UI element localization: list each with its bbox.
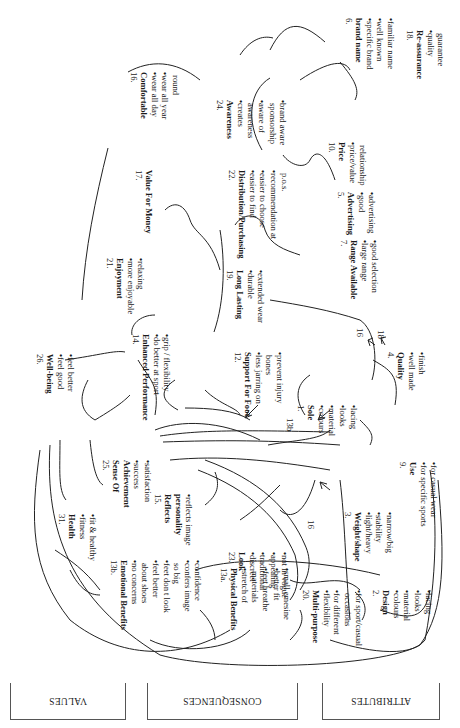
node-title: Physical Benefits	[229, 568, 240, 630]
node-item: •finish	[417, 352, 428, 391]
node-item-cont: •sponsorship	[267, 100, 278, 145]
node-title: Sense Of Achievement	[111, 460, 132, 500]
node-number: 13a.	[218, 568, 229, 630]
node-physical-benefits: 13a. Physical Benefits •stretch of •mate…	[218, 568, 292, 630]
node-title: Multi-purpose	[311, 590, 322, 646]
node-number: 17.	[133, 170, 144, 234]
node-item: •easier to choose	[258, 170, 269, 259]
node-title: Sole	[306, 405, 317, 436]
node-number: 25.	[100, 460, 111, 502]
level-box-attributes: ATTRIBUTES	[322, 683, 440, 720]
node-use: 9. Use •for specific sports •for casual …	[397, 462, 439, 527]
node-number: 3.	[342, 512, 353, 562]
node-item: •more enjoyable	[125, 258, 136, 314]
node-title: Use	[408, 462, 419, 527]
node-number: 21.	[104, 258, 115, 314]
level-label-attributes: ATTRIBUTES	[351, 696, 411, 706]
node-number: 6.	[343, 18, 354, 69]
node-health: 31. Health •fitness •fit & healthy	[56, 514, 98, 561]
node-price: 10. Price •price/value •relationship	[326, 142, 368, 186]
node-advertising: 5. Advertising •good •advertising	[335, 192, 377, 235]
node-item: •feet don t look	[161, 560, 172, 630]
node-item: •material	[402, 590, 413, 621]
node-number: 31.	[56, 514, 67, 561]
node-item: •feel better	[150, 560, 161, 630]
node-title: Advertising	[346, 192, 357, 235]
node-item-cont: •p.o.s.	[279, 170, 290, 259]
node-title: Reflects personality	[163, 494, 184, 538]
node-title: Support For Foot	[243, 352, 254, 416]
node-comfortable: 16. Comfortable •wear all day •wear all …	[128, 72, 181, 119]
node-title: Awareness	[225, 100, 236, 145]
node-item: •reflects image	[184, 494, 195, 545]
node-title: Range Available	[349, 240, 360, 299]
node-title: Well-being	[45, 354, 56, 394]
node-item: •flexibility	[321, 590, 332, 646]
node-number: 22.	[226, 170, 237, 259]
node-item: •wear all year	[160, 72, 171, 119]
node-number: 19.	[224, 270, 235, 323]
node-item: •familiar name	[385, 18, 396, 69]
node-number: 2.	[370, 590, 381, 621]
node-item: •feel good	[55, 354, 66, 394]
node-number: 12.	[232, 352, 243, 416]
annotation-18-top: 18	[376, 330, 386, 339]
node-item: •better fit	[271, 568, 282, 630]
node-item: •good selection	[370, 240, 381, 299]
node-item: •well made	[406, 352, 417, 391]
node-item: •feet breathe	[260, 568, 271, 630]
node-title: Design	[381, 590, 392, 621]
node-number: 14.	[130, 334, 141, 421]
node-item: •wear all day	[149, 72, 160, 119]
node-long-lasting: 19. Long Lasting •durable •extended wear	[224, 270, 266, 323]
node-item: •small emesine	[282, 568, 293, 630]
node-item: •lacing	[423, 590, 434, 621]
node-item: •colours	[391, 590, 402, 621]
node-title: Re-assurance	[415, 30, 426, 79]
node-number: 10.	[326, 142, 337, 186]
node-re-assurance: 18. Re-assurance •quality •guarantee	[404, 30, 446, 79]
node-item: •specific brand	[364, 18, 375, 69]
node-title: Comfortable	[139, 72, 150, 119]
node-value-for-money: 17. Value For Money	[133, 170, 154, 234]
node-item: •quality	[425, 30, 436, 79]
node-item: •aware of	[256, 100, 267, 145]
node-item: •colours	[316, 405, 327, 436]
node-item-cont: •guarantee	[436, 30, 447, 79]
node-item: •confers image	[182, 560, 193, 630]
node-item: •relaxing	[136, 258, 147, 314]
node-item: •stability	[374, 512, 385, 562]
annotation-16-mid: 16	[306, 520, 316, 529]
annotation-13b: 13b	[285, 418, 295, 432]
node-well-being: 26. Well-being •feel good •feel better	[34, 354, 76, 394]
node-item: •confidence	[193, 560, 204, 630]
level-box-values: VALUES	[10, 683, 126, 720]
node-item: •grip / flexibility	[162, 334, 173, 421]
node-item: •fitness	[77, 514, 88, 561]
node-number: 4.	[385, 352, 396, 391]
node-item-cont: •awareness	[246, 100, 257, 145]
node-quality: 4. Quality •well made •finish	[385, 352, 427, 391]
level-box-consequences: CONSEQUENCES	[147, 683, 298, 720]
node-weight-shape: 3. Weight/shape •light/heavy •stability …	[342, 512, 395, 562]
node-title: Health	[67, 514, 78, 561]
node-item: •advertising	[367, 192, 378, 235]
node-number: 13b.	[108, 560, 119, 630]
node-title: Enhanced Performance	[141, 334, 152, 421]
node-item-cont: •bones	[264, 352, 275, 416]
node-item: •fit & healthy	[88, 514, 99, 561]
node-title: Enjoyment	[115, 258, 126, 314]
node-multi-purpose: 20. Multi-purpose •flexibility •for diff…	[300, 590, 364, 646]
node-title: brand name	[354, 18, 365, 69]
node-emotional-benefits: 13b. Emotional Benefits •no concerns •ab…	[108, 560, 203, 630]
node-number: 24.	[214, 100, 225, 145]
node-title: Price	[337, 142, 348, 186]
node-item: •durable	[245, 270, 256, 323]
node-number: 7.	[338, 240, 349, 299]
node-item: •material	[327, 405, 338, 436]
node-item: •large range	[359, 240, 370, 299]
node-item: •easier to find	[247, 170, 258, 259]
node-reflects-personality: 15. Reflects personality •reflects image	[152, 494, 194, 545]
node-item: •looks	[412, 590, 423, 621]
node-item: •prevent injury	[274, 352, 285, 416]
